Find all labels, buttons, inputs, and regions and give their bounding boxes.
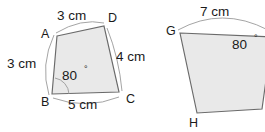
- angle-degree-symbol-b: °: [84, 64, 88, 74]
- side-label-ad: 3 cm: [57, 8, 86, 23]
- figure-canvas: 3 cm 4 cm 5 cm 3 cm 80 ° A D C B: [0, 0, 265, 132]
- right-quadrilateral-shape: [180, 33, 265, 113]
- vertex-label-h: H: [189, 116, 198, 130]
- dimension-arc-top-right: [178, 18, 265, 30]
- quadrilateral-abcd-shape: [52, 26, 119, 94]
- vertex-label-a: A: [41, 27, 50, 41]
- vertex-label-d: D: [108, 11, 117, 25]
- side-label-dc-text: 4 cm: [116, 49, 145, 64]
- side-label-ab: 3 cm: [7, 56, 36, 71]
- side-label-gtop-text: 7 cm: [200, 4, 229, 19]
- angle-label-right: 80: [232, 37, 247, 52]
- side-label-bc: 5 cm: [68, 97, 97, 112]
- vertex-label-b: B: [41, 95, 49, 109]
- side-label-ab-text: 3 cm: [7, 56, 36, 71]
- left-quadrilateral-group: 3 cm 4 cm 5 cm 3 cm 80 ° A D C B: [7, 8, 145, 112]
- right-quadrilateral-group: 7 cm 80 ° G H: [166, 4, 265, 131]
- angle-label-b: 80: [62, 68, 77, 83]
- side-label-ad-text: 3 cm: [57, 8, 86, 23]
- side-label-dc: 4 cm: [116, 49, 145, 64]
- side-label-bc-text: 5 cm: [68, 97, 97, 112]
- angle-degree-symbol-right: °: [254, 33, 258, 43]
- geometry-figure: 3 cm 4 cm 5 cm 3 cm 80 ° A D C B: [0, 0, 265, 132]
- vertex-label-g: G: [166, 24, 176, 38]
- vertex-label-c: C: [126, 92, 135, 106]
